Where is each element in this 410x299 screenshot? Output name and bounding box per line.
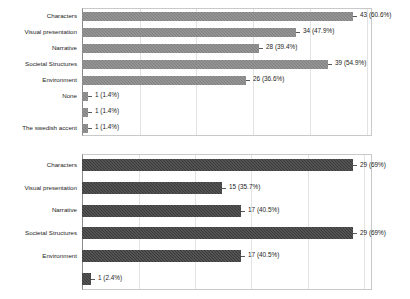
value-label: 17 (40.5%) xyxy=(248,207,279,213)
category-label: Societal Structures xyxy=(25,61,77,67)
gridline xyxy=(195,155,196,289)
value-label: 1 (2.4%) xyxy=(98,275,122,281)
value-label: 1 (1.4%) xyxy=(95,108,119,114)
leader-line xyxy=(88,112,92,113)
category-label: Visual presentation xyxy=(24,29,77,35)
bar-chart-figure: Characters43 (60.6%)Visual presentation3… xyxy=(0,0,410,299)
category-label: Societal Structures xyxy=(25,230,77,236)
bar xyxy=(82,76,246,85)
value-label: 15 (35.7%) xyxy=(229,184,260,190)
category-label: Characters xyxy=(47,13,77,19)
leader-line xyxy=(296,32,300,33)
gridline xyxy=(251,155,252,289)
value-label: 29 (69%) xyxy=(360,162,386,168)
leader-line xyxy=(88,96,92,97)
value-label: 29 (69%) xyxy=(360,230,386,236)
category-label: Visual presentation xyxy=(24,185,77,191)
leader-line xyxy=(353,233,357,234)
gridline xyxy=(364,155,365,289)
category-label: Environment xyxy=(42,253,77,259)
value-label: 34 (47.9%) xyxy=(303,28,334,34)
category-label: Characters xyxy=(47,162,77,168)
bar xyxy=(82,44,259,53)
value-label: 39 (54.9%) xyxy=(335,60,366,66)
bar xyxy=(82,60,328,69)
leader-line xyxy=(328,64,332,65)
value-label: 43 (60.6%) xyxy=(360,12,391,18)
value-label: 1 (1.4%) xyxy=(95,124,119,130)
bottom-chart-plot-area xyxy=(82,154,372,290)
gridline xyxy=(367,9,368,135)
leader-line xyxy=(222,188,226,189)
bar xyxy=(82,182,222,194)
category-label: Environment xyxy=(42,77,77,83)
bar xyxy=(82,159,353,171)
category-label: None xyxy=(62,93,77,99)
leader-line xyxy=(241,256,245,257)
bar xyxy=(82,227,353,239)
value-label: 26 (36.6%) xyxy=(253,76,284,82)
bar xyxy=(82,205,241,217)
value-label: 1 (1.4%) xyxy=(95,92,119,98)
bar xyxy=(82,273,91,285)
bar xyxy=(82,28,296,37)
leader-line xyxy=(246,80,250,81)
category-label: Narrative xyxy=(52,207,77,213)
value-label: 17 (40.5%) xyxy=(248,252,279,258)
category-label: Narrative xyxy=(52,45,77,51)
category-label: The swedish accent xyxy=(22,125,77,131)
leader-line xyxy=(259,48,263,49)
leader-line xyxy=(353,16,357,17)
bar xyxy=(82,250,241,262)
bottom-chart-panel: Characters29 (69%)Visual presentation15 … xyxy=(0,148,410,299)
bar xyxy=(82,12,353,21)
gridline xyxy=(308,155,309,289)
gridline xyxy=(139,155,140,289)
leader-line xyxy=(353,165,357,166)
leader-line xyxy=(241,211,245,212)
value-label: 28 (39.4%) xyxy=(266,44,297,50)
leader-line xyxy=(91,279,95,280)
leader-line xyxy=(88,128,92,129)
top-chart-panel: Characters43 (60.6%)Visual presentation3… xyxy=(0,0,410,144)
